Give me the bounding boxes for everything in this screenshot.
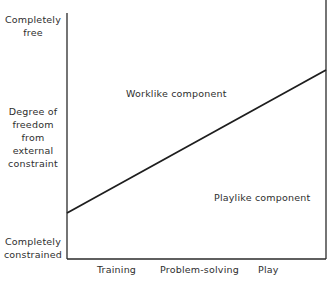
y-axis-title: Degree of freedom from external constrai… bbox=[0, 105, 66, 170]
y-axis-bottom-label: Completely constrained bbox=[0, 235, 66, 261]
y-axis-top-label: Completely free bbox=[0, 13, 66, 39]
x-category-play: Play bbox=[258, 263, 279, 276]
worklike-component-label: Worklike component bbox=[126, 87, 227, 100]
playlike-component-label: Playlike component bbox=[214, 191, 310, 204]
y-title-line1: Degree of bbox=[0, 105, 66, 118]
y-top-label-line2: free bbox=[0, 26, 66, 39]
y-title-line2: freedom bbox=[0, 118, 66, 131]
y-bottom-label-line2: constrained bbox=[0, 248, 66, 261]
y-title-line5: constraint bbox=[0, 157, 66, 170]
x-category-training: Training bbox=[97, 263, 136, 276]
y-bottom-label-line1: Completely bbox=[0, 235, 66, 248]
y-title-line3: from bbox=[0, 131, 66, 144]
y-top-label-line1: Completely bbox=[0, 13, 66, 26]
y-title-line4: external bbox=[0, 144, 66, 157]
x-category-problem-solving: Problem-solving bbox=[160, 263, 239, 276]
